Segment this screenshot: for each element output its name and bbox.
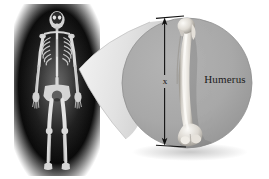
humerus-label: Humerus xyxy=(196,73,254,85)
medial-epicondyle xyxy=(181,136,190,144)
lateral-epicondyle xyxy=(191,135,201,144)
figure-root: x Humerus xyxy=(0,0,269,179)
dimension-label-x: x xyxy=(159,76,171,86)
callout-circle-layer xyxy=(0,0,269,179)
